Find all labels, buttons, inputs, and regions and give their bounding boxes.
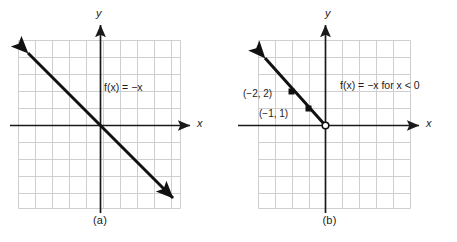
panel-caption-b: (b)	[215, 214, 444, 226]
panel-caption-a: (a)	[0, 214, 214, 226]
graph-b	[228, 0, 457, 242]
y-axis-label-a: y	[96, 7, 102, 19]
grid-lines-b	[259, 41, 411, 209]
equation-label-a: f(x) = −x	[104, 81, 143, 93]
panel-a: y x f(x) = −x (a)	[0, 0, 228, 242]
panel-b: y x f(x) = −x for x < 0 (−2, 2) (−1, 1) …	[228, 0, 457, 242]
graph-a	[0, 0, 228, 242]
axes-b	[238, 25, 419, 213]
data-point-marker	[306, 106, 312, 112]
data-point-marker	[289, 89, 295, 95]
figure-container: y x f(x) = −x (a)	[0, 0, 457, 242]
x-axis-label-b: x	[426, 117, 432, 129]
equation-label-b: f(x) = −x for x < 0	[340, 79, 420, 91]
axes-a	[10, 25, 190, 213]
x-axis-label-a: x	[197, 117, 203, 129]
y-axis-label-b: y	[325, 7, 331, 19]
point-label-minus1-1: (−1, 1)	[259, 108, 288, 119]
open-endpoint-circle	[322, 122, 329, 129]
point-label-minus2-2: (−2, 2)	[243, 88, 272, 99]
